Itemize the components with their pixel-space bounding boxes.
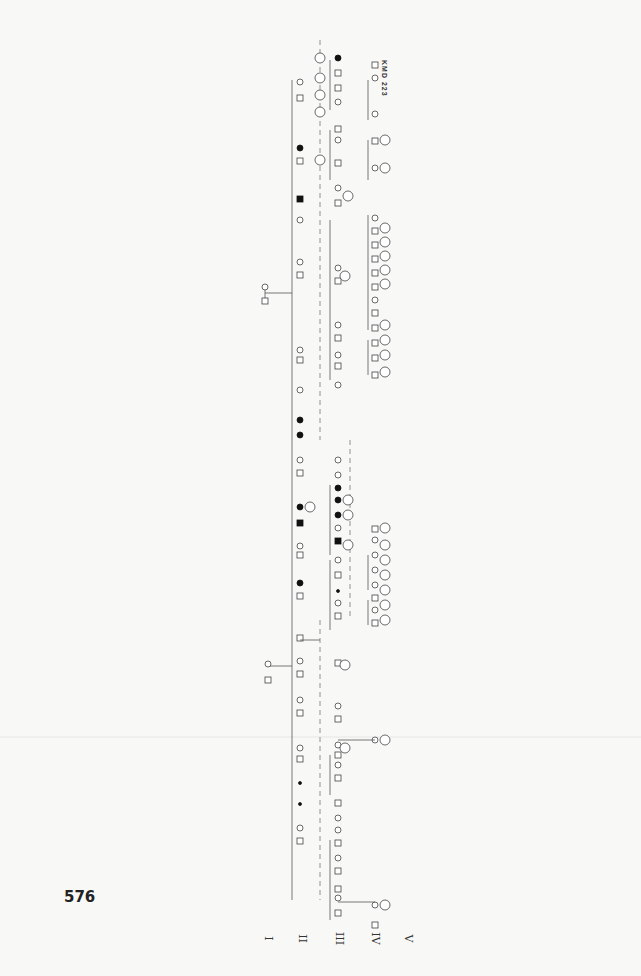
generation-label-4: IV <box>369 932 382 944</box>
generation-label-5: V <box>402 935 415 943</box>
pedigree-chart <box>0 0 641 976</box>
generation-label-2: II <box>296 934 309 943</box>
generation-label-1: I <box>262 936 275 940</box>
page-number: 576 <box>64 888 95 906</box>
document-page: KMD 223 <box>0 0 641 976</box>
generation-label-3: III <box>333 932 346 945</box>
